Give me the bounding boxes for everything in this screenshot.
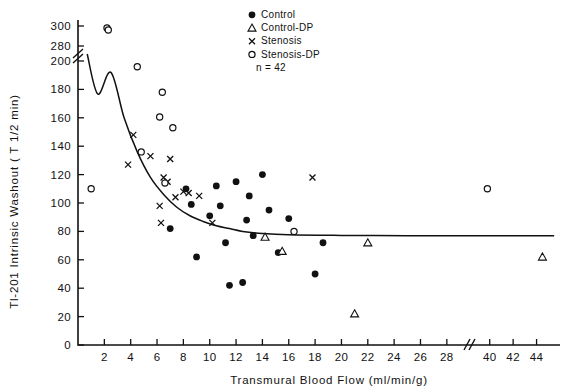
data-point — [157, 114, 163, 120]
legend-label: Control-DP — [261, 22, 313, 33]
x-tick-label: 22 — [361, 351, 375, 363]
data-point — [222, 239, 229, 246]
marker-filled-circle — [222, 239, 229, 246]
marker-open-triangle — [538, 253, 546, 260]
marker-open-circle — [134, 64, 140, 70]
y-tick-label: 160 — [51, 112, 71, 124]
data-point — [167, 225, 174, 232]
y-axis-title: Tl-201 Intrinsic Washout ( T 1/2 min) — [8, 94, 20, 309]
data-point — [88, 186, 94, 192]
data-point — [250, 232, 257, 239]
plot-axes — [78, 20, 560, 345]
y-tick-label: 120 — [51, 169, 71, 181]
marker-filled-circle — [285, 215, 292, 222]
y-tick-label: 60 — [57, 254, 71, 266]
x-tick-label: 24 — [387, 351, 401, 363]
x-tick-label: 10 — [203, 351, 217, 363]
data-point — [138, 149, 144, 155]
data-point — [291, 228, 297, 234]
marker-open-circle — [484, 186, 490, 192]
data-point — [206, 212, 213, 219]
marker-open-circle — [170, 125, 176, 131]
marker-filled-circle — [193, 254, 200, 261]
data-point — [309, 174, 315, 180]
marker-x — [309, 174, 315, 180]
data-point — [159, 89, 165, 95]
data-point — [538, 253, 546, 260]
x-tick-label: 12 — [229, 351, 243, 363]
marker-filled-circle — [188, 201, 195, 208]
data-point — [285, 215, 292, 222]
marker-filled-circle — [266, 207, 273, 214]
data-point — [157, 203, 163, 209]
data-point — [170, 125, 176, 131]
marker-x — [186, 190, 192, 196]
marker-filled-circle — [239, 279, 246, 286]
marker-filled-circle — [250, 232, 257, 239]
marker-filled-circle — [233, 178, 240, 185]
marker-x — [130, 132, 136, 138]
marker-filled-circle — [259, 171, 266, 178]
data-point — [162, 180, 168, 186]
series-control — [167, 171, 327, 289]
data-point — [364, 239, 372, 246]
y-tick-label: 300 — [51, 20, 71, 32]
x-tick-label: 8 — [180, 351, 187, 363]
data-point — [239, 279, 246, 286]
data-point — [243, 217, 250, 224]
legend-marker-open-triangle — [248, 24, 256, 31]
x-tick-label: 42 — [506, 351, 520, 363]
marker-filled-circle — [312, 271, 319, 278]
data-point — [147, 153, 153, 159]
marker-open-circle — [138, 149, 144, 155]
legend-label: n = 42 — [256, 62, 286, 73]
x-tick-label: 16 — [282, 351, 296, 363]
x-tick-label: 20 — [335, 351, 349, 363]
y-tick-label: 80 — [57, 225, 71, 237]
marker-open-circle — [159, 89, 165, 95]
marker-filled-circle — [167, 225, 174, 232]
y-tick-label: 140 — [51, 140, 71, 152]
marker-open-circle — [291, 228, 297, 234]
marker-filled-circle — [246, 193, 253, 200]
data-point — [196, 193, 202, 199]
x-tick-label: 14 — [256, 351, 270, 363]
legend: ControlControl-DPStenosisStenosis-DPn = … — [248, 9, 320, 73]
data-point — [158, 220, 164, 226]
marker-x — [125, 162, 131, 168]
data-point — [233, 178, 240, 185]
marker-open-circle — [162, 180, 168, 186]
marker-x — [172, 194, 178, 200]
chart-canvas: 2468101214161820222426284042440204060801… — [0, 0, 571, 390]
marker-open-circle — [157, 114, 163, 120]
series-control-dp — [261, 233, 546, 317]
data-point — [186, 190, 192, 196]
marker-filled-circle — [226, 282, 233, 289]
x-tick-label: 4 — [127, 351, 134, 363]
marker-filled-circle — [213, 183, 220, 190]
marker-x — [196, 193, 202, 199]
y-tick-label: 40 — [57, 282, 71, 294]
data-point — [217, 202, 224, 209]
marker-filled-circle — [320, 239, 327, 246]
y-tick-label: 200 — [51, 55, 71, 67]
data-point — [351, 310, 359, 317]
data-point — [167, 156, 173, 162]
data-point — [125, 162, 131, 168]
scatter-plot-figure: 2468101214161820222426284042440204060801… — [0, 0, 571, 390]
data-point — [188, 201, 195, 208]
data-point — [226, 282, 233, 289]
y-tick-label: 100 — [51, 197, 71, 209]
x-tick-label: 44 — [530, 351, 544, 363]
marker-open-triangle — [364, 239, 372, 246]
x-axis-title: Transmural Blood Flow (ml/min/g) — [230, 374, 428, 386]
marker-open-circle — [105, 27, 111, 33]
marker-filled-circle — [206, 212, 213, 219]
data-point — [134, 64, 140, 70]
y-tick-label: 180 — [51, 83, 71, 95]
data-point — [130, 132, 136, 138]
x-tick-label: 6 — [154, 351, 161, 363]
data-point — [259, 171, 266, 178]
x-tick-label: 40 — [483, 351, 497, 363]
marker-x — [167, 156, 173, 162]
